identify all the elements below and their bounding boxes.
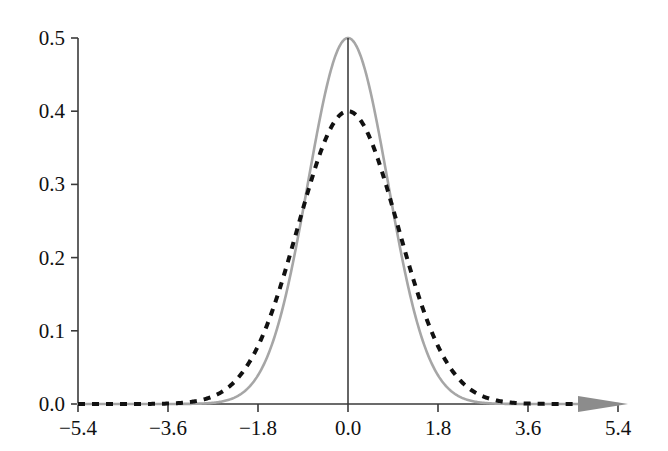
x-axis-tick-label: 5.4 (605, 418, 631, 439)
x-axis-tick-label: 0.0 (335, 418, 361, 439)
y-axis-tick-label: 0.1 (39, 320, 65, 341)
chart-plot-area (0, 0, 668, 451)
x-axis-tick-label: −1.8 (239, 418, 277, 439)
y-axis-tick-label: 0.2 (39, 247, 65, 268)
y-axis-tick-label: 0.0 (39, 394, 65, 415)
y-axis-tick-label: 0.3 (39, 174, 65, 195)
x-axis-tick-label: −5.4 (59, 418, 97, 439)
x-axis-arrowhead-icon (578, 396, 628, 412)
x-axis-tick-label: −3.6 (149, 418, 187, 439)
x-axis-tick-label: 1.8 (425, 418, 451, 439)
chart-figure: 0.00.10.20.30.40.5 −5.4−3.6−1.80.01.83.6… (0, 0, 668, 451)
y-axis-tick-label: 0.5 (39, 28, 65, 49)
x-axis-tick-label: 3.6 (515, 418, 541, 439)
y-axis-tick-label: 0.4 (39, 101, 65, 122)
y-axis-ticks (71, 38, 78, 404)
